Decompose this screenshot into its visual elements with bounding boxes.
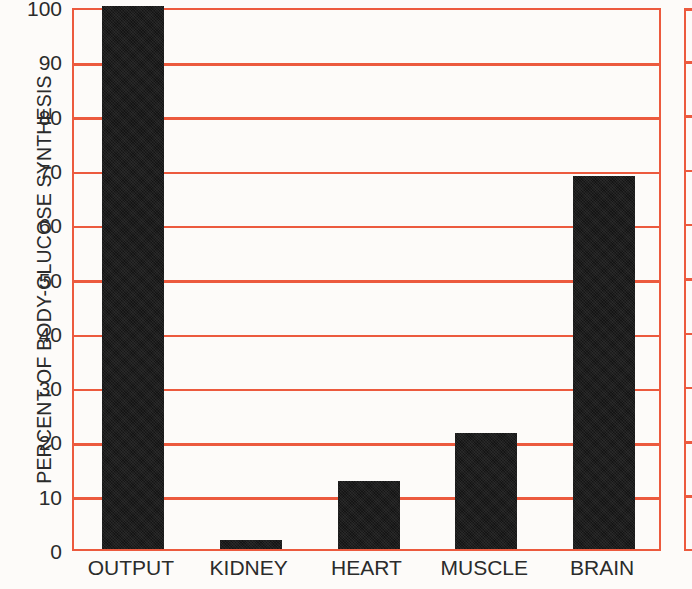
- y-axis-tick-label: 30: [39, 378, 62, 399]
- adjacent-chart-panel-sliver: [684, 8, 692, 551]
- bar-heart: [338, 481, 400, 549]
- adjacent-panel-gridline: [686, 278, 692, 281]
- x-axis-tick-label: MUSCLE: [441, 556, 529, 580]
- adjacent-panel-gridline: [686, 387, 692, 390]
- bar-output: [102, 6, 164, 549]
- bars-layer: [74, 10, 659, 549]
- bar-chart-figure: PERCENT OF BODY-GLUCOSE SYNTHESIS 010203…: [0, 0, 692, 589]
- adjacent-panel-gridline: [686, 170, 692, 173]
- y-axis-tick-label: 10: [39, 486, 62, 507]
- y-axis-tick-label: 40: [39, 323, 62, 344]
- y-axis-tick-label: 100: [27, 0, 62, 19]
- y-axis-tick-label: 60: [39, 215, 62, 236]
- plot-area: [72, 8, 661, 551]
- y-axis-tick-label: 80: [39, 106, 62, 127]
- y-axis-tick-label: 90: [39, 52, 62, 73]
- y-axis-tick-label: 70: [39, 160, 62, 181]
- adjacent-panel-gridline: [686, 441, 692, 444]
- x-axis-tick-label: OUTPUT: [88, 556, 174, 580]
- adjacent-panel-gridline: [686, 224, 692, 227]
- x-axis-tick-label: BRAIN: [570, 556, 634, 580]
- adjacent-panel-gridline: [686, 333, 692, 336]
- adjacent-panel-border: [686, 8, 692, 11]
- adjacent-panel-gridline: [686, 115, 692, 118]
- adjacent-panel-border: [686, 549, 692, 552]
- y-axis-tick-label: 20: [39, 432, 62, 453]
- x-axis-tick-label: KIDNEY: [210, 556, 288, 580]
- y-axis-tick-label: 50: [39, 269, 62, 290]
- bar-brain: [573, 176, 635, 549]
- bar-muscle: [455, 433, 517, 549]
- y-axis-tick-label: 0: [50, 541, 62, 562]
- bar-kidney: [220, 540, 282, 549]
- y-axis-tick-label-group: 0102030405060708090100: [0, 0, 68, 589]
- x-axis-tick-label-group: OUTPUTKIDNEYHEARTMUSCLEBRAIN: [72, 556, 661, 586]
- adjacent-panel-gridline: [686, 61, 692, 64]
- x-axis-tick-label: HEART: [331, 556, 402, 580]
- adjacent-panel-gridline: [686, 495, 692, 498]
